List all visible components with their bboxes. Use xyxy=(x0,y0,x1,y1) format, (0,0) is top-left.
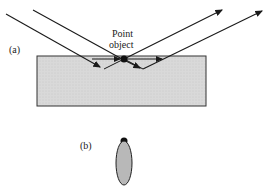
diagram-canvas xyxy=(0,0,270,193)
point-object-label-line1: Point xyxy=(112,29,133,39)
elongated-image xyxy=(116,138,132,186)
point-object-label-line2: object xyxy=(109,40,133,50)
part-b-label: (b) xyxy=(80,141,92,151)
point-object xyxy=(121,56,128,63)
reflected-ray-1 xyxy=(124,10,222,59)
part-a-label: (a) xyxy=(9,45,20,55)
glass-slab xyxy=(37,56,206,106)
